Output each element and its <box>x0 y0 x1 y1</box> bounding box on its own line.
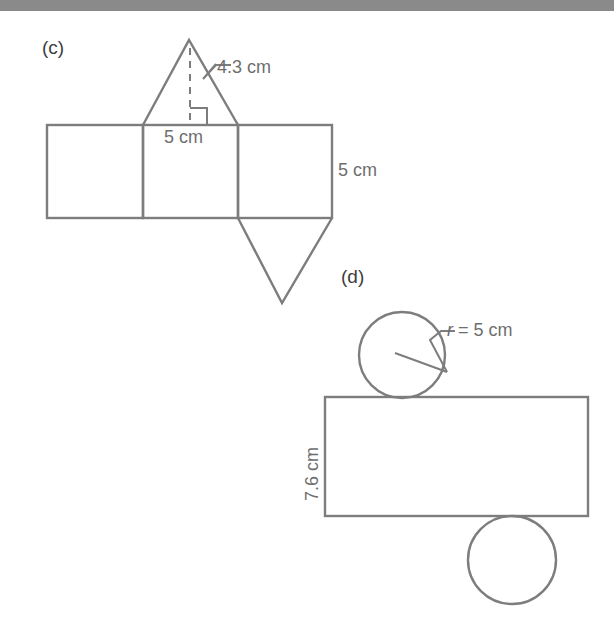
right-angle-marker <box>190 108 207 125</box>
figure-c-net <box>47 40 332 303</box>
net-triangle-bottom <box>238 218 332 303</box>
cylinder-bottom-circle <box>468 516 556 604</box>
figure-label-d: (d) <box>341 266 364 288</box>
slant-height-label: 4.3 cm <box>217 57 271 78</box>
base-width-label: 5 cm <box>164 127 203 148</box>
figure-label-c: (c) <box>42 37 64 59</box>
geometry-figures-svg <box>0 0 614 644</box>
figure-d-net <box>325 312 588 604</box>
cylinder-height-label: 7.6 cm <box>302 447 323 501</box>
radius-label: r = 5 cm <box>447 320 513 341</box>
radius-value: = 5 cm <box>453 320 513 340</box>
figure-page: (c) (d) 4.3 cm 5 cm 5 cm r = 5 cm 7.6 cm <box>0 0 614 644</box>
prism-length-label: 5 cm <box>338 160 377 181</box>
net-rect-right <box>238 125 332 218</box>
net-rect-left <box>47 125 143 218</box>
cylinder-body-rect <box>325 397 588 516</box>
